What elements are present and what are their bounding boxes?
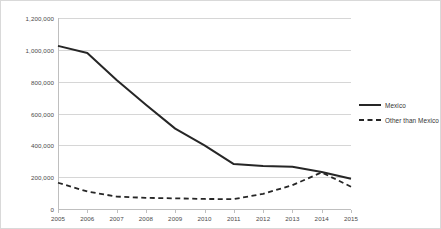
chart-container: 0200,000400,000600,000800,0001,000,0001,… bbox=[0, 0, 441, 229]
x-axis-tick-label: 2013 bbox=[285, 215, 299, 222]
x-axis-tick-label: 2006 bbox=[80, 215, 94, 222]
x-axis-tick-mark bbox=[263, 210, 264, 213]
y-axis-tick-label: 800,000 bbox=[31, 78, 54, 85]
chart-series-layer bbox=[58, 18, 351, 209]
chart-legend: MexicoOther than Mexico bbox=[359, 99, 439, 129]
x-axis-tick-label: 2009 bbox=[168, 215, 182, 222]
y-axis-tick-label: 600,000 bbox=[31, 110, 54, 117]
x-axis-tick-mark bbox=[146, 210, 147, 213]
x-axis-tick-marks bbox=[58, 210, 351, 214]
x-axis-tick-mark bbox=[205, 210, 206, 213]
legend-label: Mexico bbox=[385, 102, 406, 109]
x-axis-tick-labels: 2005200620072008200920102011201220132014… bbox=[58, 215, 351, 227]
x-axis-tick-mark bbox=[234, 210, 235, 213]
x-axis-tick-label: 2014 bbox=[315, 215, 329, 222]
x-axis-tick-mark bbox=[175, 210, 176, 213]
x-axis-tick-mark bbox=[58, 210, 59, 213]
x-axis-tick-label: 2007 bbox=[110, 215, 124, 222]
series-line-mexico bbox=[58, 46, 351, 179]
y-axis-tick-label: 200,000 bbox=[31, 174, 54, 181]
y-axis-tick-label: 1,200,000 bbox=[26, 15, 54, 22]
x-axis-tick-label: 2010 bbox=[197, 215, 211, 222]
series-line-other-than-mexico bbox=[58, 172, 351, 199]
x-axis-tick-label: 2005 bbox=[51, 215, 65, 222]
legend-entry[interactable]: Mexico bbox=[359, 99, 439, 111]
legend-label: Other than Mexico bbox=[385, 117, 439, 124]
x-axis-tick-label: 2011 bbox=[227, 215, 241, 222]
y-axis-tick-label: 0 bbox=[50, 206, 54, 213]
x-axis-tick-mark bbox=[87, 210, 88, 213]
y-axis-tick-label: 400,000 bbox=[31, 142, 54, 149]
x-axis-tick-label: 2008 bbox=[139, 215, 153, 222]
x-axis-tick-mark bbox=[292, 210, 293, 213]
x-axis-tick-label: 2012 bbox=[256, 215, 270, 222]
x-axis-tick-label: 2015 bbox=[344, 215, 358, 222]
y-axis-tick-labels: 0200,000400,000600,000800,0001,000,0001,… bbox=[1, 18, 54, 209]
x-axis-tick-mark bbox=[351, 210, 352, 213]
x-axis-tick-mark bbox=[117, 210, 118, 213]
legend-entry[interactable]: Other than Mexico bbox=[359, 114, 439, 126]
y-axis-tick-label: 1,000,000 bbox=[26, 46, 54, 53]
legend-line-swatch-icon bbox=[359, 101, 381, 109]
x-axis-tick-mark bbox=[322, 210, 323, 213]
legend-line-swatch-icon bbox=[359, 116, 381, 124]
